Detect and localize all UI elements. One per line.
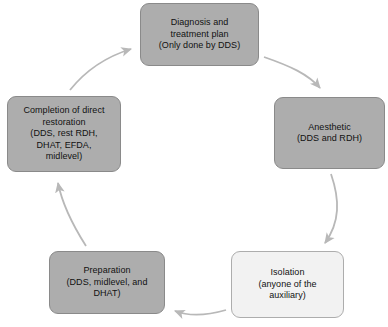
arrow-isolation-to-preparation (175, 310, 226, 315)
node-diagnosis-label: Diagnosis and treatment plan (Only done … (159, 17, 240, 51)
node-diagnosis[interactable]: Diagnosis and treatment plan (Only done … (140, 3, 259, 66)
node-isolation[interactable]: Isolation (anyone of the auxiliary) (231, 251, 344, 318)
node-preparation[interactable]: Preparation (DDS, midlevel, and DHAT) (49, 251, 165, 314)
node-completion-label: Completion of direct restoration (DDS, r… (23, 105, 104, 162)
arrow-diagnosis-to-anesthetic (264, 57, 320, 88)
node-anesthetic-label: Anesthetic (DDS and RDH) (297, 122, 362, 145)
cycle-diagram: Diagnosis and treatment plan (Only done … (0, 0, 388, 327)
node-isolation-label: Isolation (anyone of the auxiliary) (258, 267, 316, 301)
node-completion[interactable]: Completion of direct restoration (DDS, r… (7, 96, 121, 172)
arrow-completion-to-diagnosis (70, 49, 131, 90)
arrow-anesthetic-to-isolation (325, 174, 337, 243)
node-anesthetic[interactable]: Anesthetic (DDS and RDH) (274, 97, 385, 169)
node-preparation-label: Preparation (DDS, midlevel, and DHAT) (67, 265, 148, 299)
arrow-preparation-to-completion (58, 183, 86, 246)
